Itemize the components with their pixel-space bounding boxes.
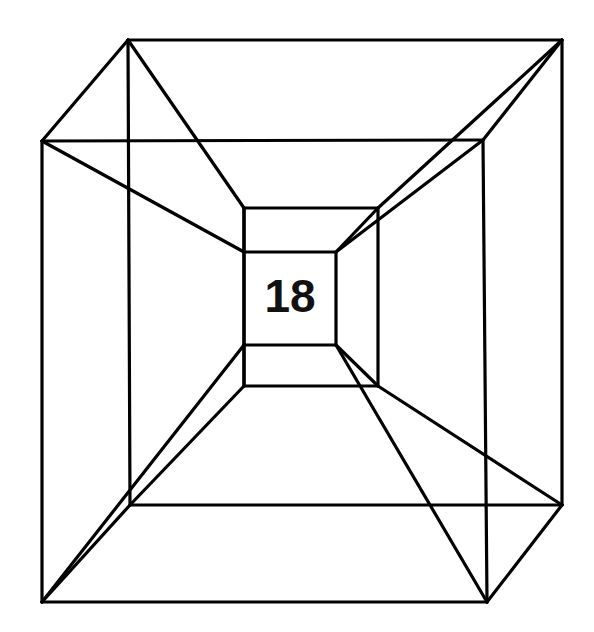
connector-back-top-left: [128, 40, 244, 208]
connector-back-bottom-right: [378, 386, 562, 505]
outer-depth-edge-top-left: [42, 40, 128, 141]
center-cell-label: 18: [264, 270, 315, 322]
connector-back-top-right: [378, 40, 562, 208]
connector-back-bottom-left: [130, 386, 244, 505]
outer-depth-edge-bottom-right: [487, 505, 562, 602]
connector-edges-back: [128, 40, 562, 505]
outer-cube-back-square: [128, 40, 562, 505]
connector-front-bottom-left: [42, 345, 244, 602]
connector-front-top-left: [42, 141, 244, 252]
outer-depth-edge-top-right: [483, 40, 562, 140]
connector-front-bottom-right: [336, 345, 487, 602]
outer-front-right-edge: [483, 140, 487, 602]
connector-front-top-right: [336, 140, 483, 252]
tesseract-diagram: 18: [0, 0, 594, 632]
outer-front-top-edge: [42, 140, 483, 141]
figure-root: 18: [0, 0, 594, 632]
outer-back-left-edge: [128, 40, 130, 505]
